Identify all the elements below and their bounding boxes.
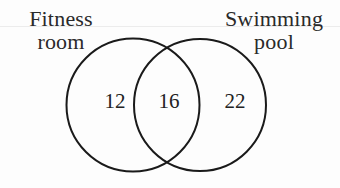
fitness-room-label: Fitness room xyxy=(16,8,106,54)
venn-diagram-canvas: Fitness room Swimming pool 12 16 22 xyxy=(0,0,340,188)
fitness-room-label-line-2: room xyxy=(16,31,106,54)
swimming-only-count: 22 xyxy=(220,91,250,112)
swimming-pool-label: Swimming pool xyxy=(216,8,332,54)
fitness-room-label-line-1: Fitness xyxy=(16,8,106,31)
swimming-pool-label-line-1: Swimming xyxy=(216,8,332,31)
swimming-pool-label-line-2: pool xyxy=(216,31,332,54)
fitness-only-count: 12 xyxy=(100,91,130,112)
intersection-count: 16 xyxy=(154,91,184,112)
